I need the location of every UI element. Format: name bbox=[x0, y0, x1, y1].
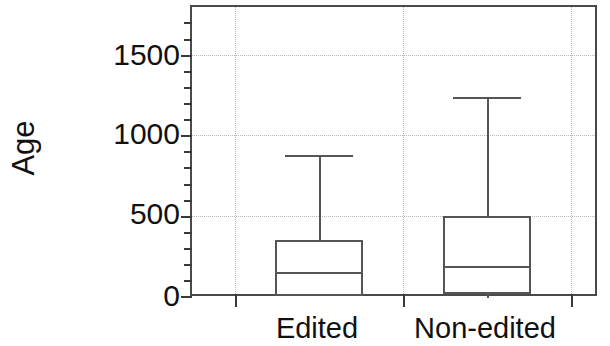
box-body-non-edited bbox=[443, 216, 531, 294]
median-line-edited bbox=[275, 272, 363, 274]
x-tick-label-non-edited: Non-edited bbox=[414, 314, 556, 343]
boxplot-figure: Age 1500 1000 500 0 bbox=[0, 0, 610, 346]
y-tick-minor-300 bbox=[184, 248, 192, 250]
y-tick-minor-400 bbox=[184, 232, 192, 234]
whisker-upper-cap-edited bbox=[285, 155, 353, 157]
y-tick-minor-900 bbox=[184, 151, 192, 153]
y-tick-major-1500 bbox=[181, 55, 192, 57]
plot-area bbox=[190, 5, 597, 296]
x-tick-label-edited: Edited bbox=[276, 314, 358, 343]
median-line-non-edited bbox=[443, 266, 531, 268]
y-tick-minor-1100 bbox=[184, 119, 192, 121]
vertical-gridline-right bbox=[571, 7, 572, 294]
y-axis-tick-labels: 1500 1000 500 0 bbox=[70, 0, 180, 346]
y-tick-major-1000 bbox=[181, 135, 192, 137]
y-tick-minor-800 bbox=[184, 167, 192, 169]
y-tick-label-500: 500 bbox=[130, 199, 180, 229]
y-tick-minor-1600 bbox=[184, 39, 192, 41]
whisker-upper-line-non-edited bbox=[487, 97, 489, 216]
horizontal-gridline-1000 bbox=[192, 135, 595, 136]
y-tick-minor-200 bbox=[184, 264, 192, 266]
whisker-upper-cap-non-edited bbox=[453, 97, 521, 99]
y-tick-minor-1200 bbox=[184, 103, 192, 105]
y-tick-minor-1300 bbox=[184, 87, 192, 89]
whisker-lower-line-non-edited bbox=[487, 294, 489, 298]
y-tick-label-1500: 1500 bbox=[113, 40, 180, 70]
y-tick-minor-700 bbox=[184, 184, 192, 186]
whisker-upper-line-edited bbox=[319, 155, 321, 240]
horizontal-gridline-1500 bbox=[192, 55, 595, 56]
y-tick-minor-600 bbox=[184, 200, 192, 202]
vertical-gridline-middle bbox=[403, 7, 404, 294]
y-tick-label-0: 0 bbox=[163, 281, 180, 311]
box-body-edited bbox=[275, 240, 363, 296]
x-tick-left bbox=[235, 294, 237, 307]
vertical-gridline-left bbox=[235, 7, 236, 294]
y-tick-label-1000: 1000 bbox=[113, 119, 180, 149]
horizontal-gridline-500 bbox=[192, 216, 595, 217]
y-tick-major-500 bbox=[181, 216, 192, 218]
x-tick-middle bbox=[403, 294, 405, 307]
y-tick-minor-100 bbox=[184, 280, 192, 282]
y-tick-minor-1400 bbox=[184, 71, 192, 73]
x-tick-right bbox=[571, 294, 573, 307]
y-axis-title: Age bbox=[6, 88, 42, 208]
y-tick-major-0 bbox=[181, 296, 192, 298]
y-tick-minor-1700 bbox=[184, 22, 192, 24]
